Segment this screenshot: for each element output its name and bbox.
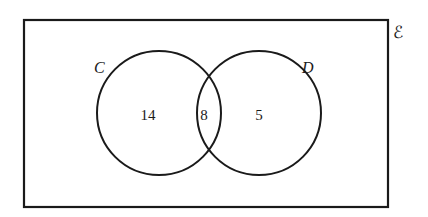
region-c-only-value: 14 [141,107,157,123]
set-d-label: D [301,59,314,76]
universal-set-symbol: ℰ [393,23,403,42]
region-d-only-value: 5 [255,107,263,123]
venn-diagram: ℰ C D 14 8 5 [0,0,428,217]
set-c-label: C [94,59,105,76]
region-intersection-value: 8 [200,107,208,123]
